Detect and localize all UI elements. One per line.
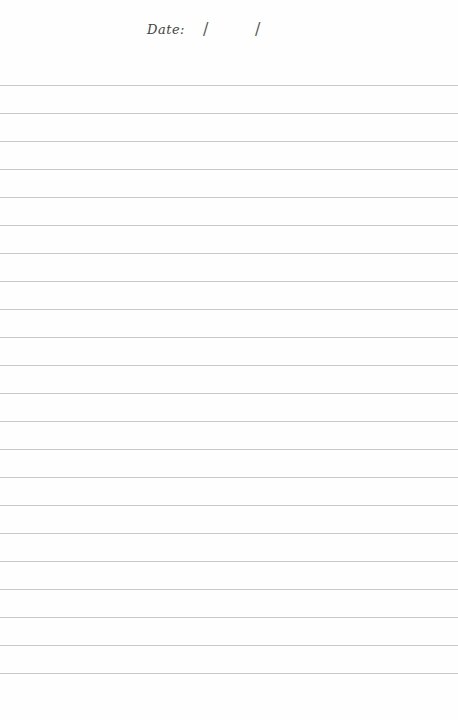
ruled-line: [0, 225, 458, 226]
ruled-line: [0, 533, 458, 534]
ruled-line: [0, 393, 458, 394]
ruled-line: [0, 365, 458, 366]
ruled-line: [0, 85, 458, 86]
ruled-line: [0, 141, 458, 142]
ruled-line: [0, 449, 458, 450]
ruled-line: [0, 617, 458, 618]
ruled-line: [0, 281, 458, 282]
ruled-line: [0, 309, 458, 310]
ruled-line: [0, 421, 458, 422]
ruled-line: [0, 645, 458, 646]
ruled-line: [0, 253, 458, 254]
ruled-line: [0, 197, 458, 198]
ruled-lines: [0, 0, 458, 720]
ruled-line: [0, 505, 458, 506]
ruled-line: [0, 477, 458, 478]
ruled-line: [0, 589, 458, 590]
ruled-line: [0, 561, 458, 562]
ruled-line: [0, 169, 458, 170]
notebook-page: Date: / /: [0, 0, 458, 720]
ruled-line: [0, 673, 458, 674]
ruled-line: [0, 113, 458, 114]
ruled-line: [0, 337, 458, 338]
